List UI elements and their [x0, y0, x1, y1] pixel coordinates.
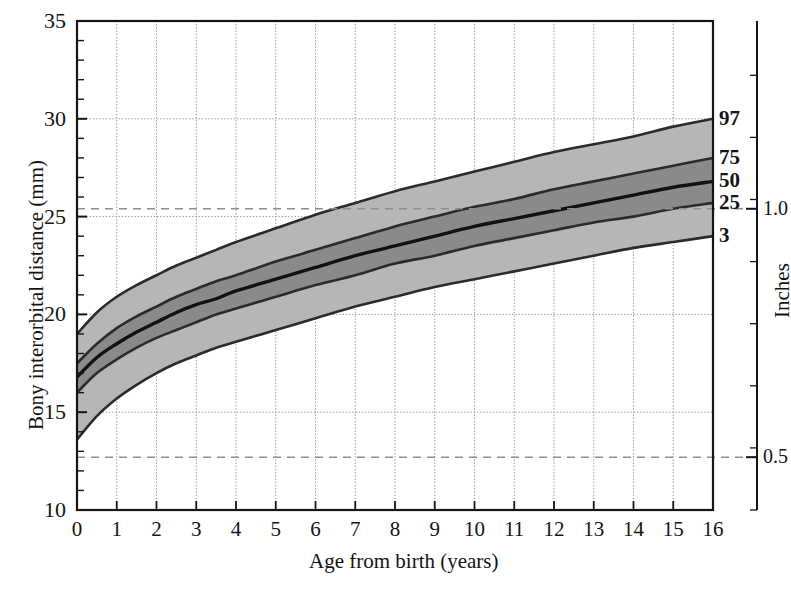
x-tick-label: 16	[693, 519, 733, 540]
x-tick-label: 0	[57, 519, 97, 540]
x-tick-label: 1	[97, 519, 137, 540]
inches-tick-label: 1.0	[763, 198, 788, 218]
x-tick-label: 15	[653, 519, 693, 540]
y-tick-label: 10	[20, 499, 66, 521]
y-axis-title: Bony interorbital distance (mm)	[26, 160, 47, 430]
percentile-label-75: 75	[719, 147, 740, 168]
inches-axis-ticks	[746, 75, 757, 510]
percentile-label-50: 50	[719, 170, 740, 191]
x-tick-label: 5	[256, 519, 296, 540]
x-tick-label: 12	[534, 519, 574, 540]
x-tick-label: 3	[176, 519, 216, 540]
x-tick-label: 9	[415, 519, 455, 540]
y-tick-label: 35	[20, 10, 66, 32]
x-tick-label: 6	[296, 519, 336, 540]
x-tick-label: 8	[375, 519, 415, 540]
y-tick-label: 30	[20, 108, 66, 130]
x-tick-label: 4	[216, 519, 256, 540]
growth-chart-figure: 101520253035 012345678910111213141516 97…	[0, 0, 791, 596]
percentile-label-25: 25	[719, 192, 740, 213]
x-axis-title: Age from birth (years)	[309, 551, 499, 572]
percentile-label-3: 3	[719, 225, 730, 246]
x-tick-label: 7	[335, 519, 375, 540]
chart-svg	[0, 0, 791, 596]
x-tick-label: 11	[494, 519, 534, 540]
percentile-label-97: 97	[719, 108, 740, 129]
x-tick-label: 14	[614, 519, 654, 540]
x-tick-label: 13	[574, 519, 614, 540]
secondary-y-axis-title: Inches	[772, 263, 791, 318]
x-tick-label: 2	[137, 519, 177, 540]
inches-tick-label: 0.5	[763, 446, 788, 466]
x-tick-label: 10	[455, 519, 495, 540]
